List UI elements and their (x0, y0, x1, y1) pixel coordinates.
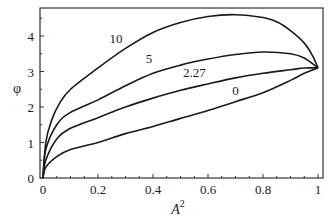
x-tick-label: 0.4 (145, 182, 162, 197)
x-axis-title-superscript: 2 (180, 198, 185, 209)
y-tick-label: 2 (28, 100, 35, 115)
x-tick-label: 0.8 (255, 182, 271, 197)
plot-frame (40, 8, 323, 178)
x-axis-title-base: A (170, 202, 180, 217)
x-tick-label: 0.6 (200, 182, 217, 197)
curve-10 (43, 15, 318, 178)
axis-tick-labels: 00.20.40.60.8101234 (28, 29, 322, 197)
curve-label-0: 0 (232, 83, 239, 98)
x-tick-label: 1 (315, 182, 322, 197)
y-tick-label: 3 (28, 65, 35, 80)
phase-chart: 00.20.40.60.8101234 02.27510 φ A2 (0, 0, 332, 223)
x-axis-title: A2 (170, 198, 185, 217)
y-tick-label: 1 (28, 136, 35, 151)
x-tick-label: 0.2 (90, 182, 106, 197)
curve-2-27 (43, 68, 318, 178)
curves (43, 15, 318, 178)
curve-labels: 02.27510 (109, 31, 238, 97)
curve-label-2-27: 2.27 (183, 65, 206, 80)
curve-label-10: 10 (109, 31, 122, 46)
y-tick-label: 0 (28, 171, 35, 186)
x-tick-label: 0 (40, 182, 47, 197)
axis-ticks (40, 18, 318, 178)
y-tick-label: 4 (28, 29, 35, 44)
curve-label-5: 5 (146, 51, 153, 66)
y-axis-title: φ (13, 81, 21, 96)
